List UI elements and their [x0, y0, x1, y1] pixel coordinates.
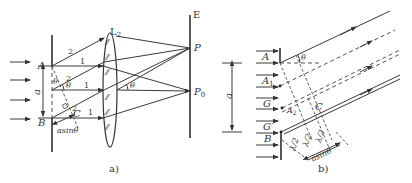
theta-b: θ	[301, 53, 306, 62]
svg-text:⁄⁄: ⁄⁄	[104, 68, 110, 77]
label-A2: A2	[286, 106, 297, 116]
lens-label: L2	[110, 26, 121, 39]
label-b: B	[37, 117, 45, 128]
label-B: B	[263, 133, 271, 144]
label-a-top: A	[37, 60, 45, 71]
ray-1-top: 1	[80, 57, 85, 66]
label-G-prime: G′	[263, 121, 274, 132]
ray-2-top: 2	[68, 47, 73, 56]
ray-1-mid: 1	[84, 81, 89, 90]
panel-a: ⁄⁄⁄⁄⁄⁄ ⁄⁄⁄⁄⁄⁄ A B a C	[10, 9, 205, 174]
svg-text:⁄⁄: ⁄⁄	[104, 93, 110, 102]
ray-1-bot: 1	[88, 108, 93, 117]
half-wave-3: λ/2	[313, 129, 326, 145]
theta-perp: θ	[53, 77, 58, 86]
label-path-diff-b: asinθ	[310, 146, 333, 163]
caption-a: a)	[109, 163, 119, 174]
ray-2-bot: 2	[72, 104, 77, 113]
screen-label: E	[193, 9, 200, 20]
label-width-a: a	[31, 89, 42, 95]
theta-slit: θ	[66, 81, 71, 90]
diffraction-figure: ⁄⁄⁄⁄⁄⁄ ⁄⁄⁄⁄⁄⁄ A B a C	[0, 0, 412, 183]
point-p: P	[193, 42, 201, 53]
theta-lens: θ	[130, 81, 135, 90]
caption-b: b)	[318, 163, 328, 174]
svg-text:⁄⁄: ⁄⁄	[104, 38, 110, 47]
label-width-a-b: a	[223, 93, 234, 99]
label-G: G	[263, 98, 271, 109]
panel-b: A A1 G G′ B a θ C A2 λ/2 λ/2 λ/2 asinθ b…	[222, 11, 400, 174]
label-A: A	[261, 51, 269, 62]
half-wave-2: λ/2	[300, 133, 313, 149]
label-path-diff: asinθ	[57, 126, 79, 135]
half-wave-1: λ/2	[287, 137, 300, 153]
label-C-b: C	[315, 101, 323, 112]
point-p0: P0	[193, 86, 205, 99]
label-A1: A1	[261, 75, 274, 88]
incident-arrows	[10, 62, 30, 119]
